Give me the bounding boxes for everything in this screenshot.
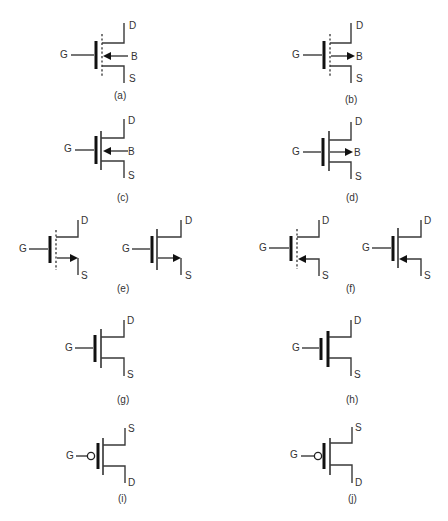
drain-label: D	[129, 20, 136, 31]
source-label: S	[424, 270, 431, 281]
caption-g: (g)	[117, 394, 129, 405]
source-label: S	[354, 369, 361, 380]
inversion-bubble-icon	[87, 452, 94, 459]
arrow-out-icon	[173, 254, 181, 262]
source-label: S	[128, 423, 135, 434]
source-label: S	[356, 73, 363, 84]
symbol-e: G D S G D S (e)	[19, 215, 192, 294]
source-label: S	[355, 171, 362, 182]
drain-label: D	[128, 477, 135, 488]
body-label: B	[131, 51, 138, 62]
gate-label: G	[259, 242, 267, 253]
symbol-f: G D S G D S (f)	[259, 215, 431, 294]
symbol-c: G D B S (c)	[64, 115, 135, 203]
drain-label: D	[185, 215, 192, 226]
source-label: S	[127, 369, 134, 380]
symbol-i: G S D (i)	[66, 423, 135, 504]
drain-label: D	[127, 315, 134, 326]
source-label: S	[128, 170, 135, 181]
body-label: B	[354, 147, 361, 158]
symbol-b: G D B S (b)	[292, 20, 363, 105]
arrow-out-icon	[347, 52, 355, 60]
arrow-out-icon	[70, 254, 78, 262]
inversion-bubble-icon	[314, 452, 321, 459]
source-label: S	[322, 270, 329, 281]
gate-label: G	[122, 243, 130, 254]
caption-i: (i)	[118, 493, 127, 504]
caption-b: (b)	[345, 94, 357, 105]
gate-label: G	[19, 243, 27, 254]
caption-a: (a)	[114, 90, 126, 101]
caption-c: (c)	[117, 192, 129, 203]
drain-label: D	[424, 215, 431, 226]
source-label: S	[129, 73, 136, 84]
body-label: B	[356, 51, 363, 62]
source-label: S	[185, 270, 192, 281]
gate-label: G	[292, 49, 300, 60]
caption-d: (d)	[346, 192, 358, 203]
gate-label: G	[65, 342, 73, 353]
arrow-in-icon	[103, 52, 111, 60]
drain-label: D	[81, 215, 88, 226]
mosfet-symbols-figure: G D B S (a) G D B S (b) G D B	[0, 0, 448, 521]
gate-label: G	[290, 449, 298, 460]
arrow-in-icon	[399, 255, 407, 263]
arrow-out-icon	[345, 148, 353, 156]
gate-label: G	[66, 450, 74, 461]
caption-e: (e)	[117, 283, 129, 294]
drain-label: D	[322, 215, 329, 226]
source-label: S	[355, 422, 362, 433]
gate-label: G	[292, 342, 300, 353]
drain-label: D	[354, 315, 361, 326]
gate-label: G	[60, 49, 68, 60]
drain-label: D	[355, 116, 362, 127]
arrow-in-icon	[103, 147, 111, 155]
gate-label: G	[64, 143, 72, 154]
gate-label: G	[292, 146, 300, 157]
body-label: B	[128, 146, 135, 157]
caption-f: (f)	[346, 283, 355, 294]
arrow-in-icon	[298, 255, 306, 263]
gate-label: G	[362, 242, 370, 253]
caption-j: (j)	[348, 493, 357, 504]
symbol-g: G D S (g)	[65, 315, 134, 405]
symbol-d: G D B S (d)	[292, 116, 362, 203]
drain-label: D	[355, 477, 362, 488]
drain-label: D	[128, 115, 135, 126]
drain-label: D	[356, 20, 363, 31]
symbol-a: G D B S (a)	[60, 20, 138, 101]
source-label: S	[81, 270, 88, 281]
symbol-h: G D S (h)	[292, 315, 361, 405]
caption-h: (h)	[346, 394, 358, 405]
symbol-j: G S D (j)	[290, 422, 362, 504]
